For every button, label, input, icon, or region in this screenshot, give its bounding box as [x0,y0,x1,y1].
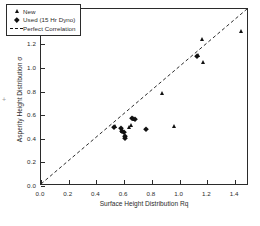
y-axis-tick-label: 0.4 [18,134,36,141]
legend-label: Used (15 Hr Dyno) [23,16,75,23]
y-axis-tick-label: 0.0 [18,182,36,189]
y-axis-tick [41,139,45,140]
legend-label: New [23,8,36,15]
x-axis-tick [180,180,181,184]
x-axis-tick [207,180,208,184]
legend-item-perfect-correlation: Perfect Correlation [10,24,76,32]
x-axis-tick [124,180,125,184]
stray-plus-mark: + [2,96,6,103]
data-point [129,123,133,127]
y-axis-tick [41,92,45,93]
x-axis-tick-label: 1.0 [174,190,183,197]
scatter-plot-figure: + Asperity Height Distribution σ Surface… [0,0,260,226]
x-axis-tick [235,180,236,184]
y-axis-tick [41,68,45,69]
chart-legend: New Used (15 Hr Dyno) Perfect Correlatio… [6,4,81,36]
data-point [160,91,164,95]
x-axis-title: Surface Height Distribution Rq [40,200,248,207]
x-axis-tick [41,180,42,184]
legend-item-used: Used (15 Hr Dyno) [10,16,76,24]
x-axis-tick-label: 1.2 [202,190,211,197]
y-axis-tick-label: 0.8 [18,87,36,94]
x-axis-tick-label: 0.4 [91,190,100,197]
data-point [239,29,243,33]
y-axis-title: Asperity Height Distribution σ [16,35,23,165]
legend-label: Perfect Correlation [23,25,76,32]
y-axis-tick [41,186,45,187]
x-axis-tick [152,180,153,184]
x-axis-tick-label: 0.0 [36,190,45,197]
y-axis-tick-label: 1.2 [18,40,36,47]
y-axis-tick-label: 0.2 [18,158,36,165]
triangle-marker-icon [10,9,23,13]
y-axis-tick [41,115,45,116]
y-axis-tick-label: 0.6 [18,111,36,118]
data-point [172,124,176,128]
diamond-marker-icon [10,18,23,22]
x-axis-tick [96,180,97,184]
x-axis-tick [69,180,70,184]
dashed-line-marker-icon [10,28,23,29]
y-axis-tick [41,44,45,45]
y-axis-tick-label: 1.0 [18,64,36,71]
x-axis-tick-label: 0.2 [63,190,72,197]
data-point [200,37,204,41]
x-axis-tick-label: 1.4 [230,190,239,197]
y-axis-tick [41,162,45,163]
legend-item-new: New [10,7,76,15]
data-point [201,60,205,64]
x-axis-tick-label: 0.8 [146,190,155,197]
x-axis-tick-label: 0.6 [119,190,128,197]
